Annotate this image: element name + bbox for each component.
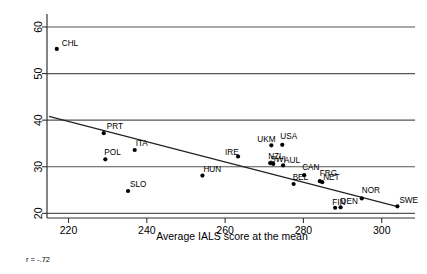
x-tick-label-300: 300 xyxy=(373,224,391,236)
y-tick-label-60: 60 xyxy=(32,21,44,33)
trend-line xyxy=(49,116,399,206)
data-label-CHL: CHL xyxy=(62,39,79,48)
data-label-NET: NET xyxy=(323,173,339,182)
y-tick-label-50: 50 xyxy=(32,68,44,80)
data-point-USA xyxy=(280,143,284,147)
data-label-USA: USA xyxy=(280,132,297,141)
data-label-PRT: PRT xyxy=(107,122,123,131)
data-point-CHL xyxy=(55,47,59,51)
correlation-annotation: r = -.72 xyxy=(26,255,50,264)
y-tick-label-30: 30 xyxy=(32,161,44,173)
data-point-POL xyxy=(103,157,107,161)
data-label-CAN: CAN xyxy=(302,163,319,172)
data-point-SLO xyxy=(126,189,130,193)
data-label-DEN: DEN xyxy=(341,197,358,206)
chart-canvas: CHLPRTPOLITASLOHUNIREUKMUSANZLSWIAULCANB… xyxy=(0,0,427,274)
data-point-HUN xyxy=(200,174,204,178)
data-label-ITA: ITA xyxy=(136,139,149,148)
data-label-SWE: SWE xyxy=(399,196,418,205)
data-point-ITA xyxy=(133,148,137,152)
data-label-HUN: HUN xyxy=(203,165,221,174)
gridlines xyxy=(47,27,415,213)
x-axis-title: Average IALS score at the mean xyxy=(156,230,308,242)
x-tick-label-220: 220 xyxy=(60,224,78,236)
data-label-POL: POL xyxy=(104,148,121,157)
x-tick-label-240: 240 xyxy=(138,224,156,236)
data-label-BEL: BEL xyxy=(293,173,309,182)
data-point-labels: CHLPRTPOLITASLOHUNIREUKMUSANZLSWIAULCANB… xyxy=(62,39,419,207)
data-label-UKM: UKM xyxy=(257,135,275,144)
data-label-NOR: NOR xyxy=(362,186,380,195)
scatter-plot-figure: CHLPRTPOLITASLOHUNIREUKMUSANZLSWIAULCANB… xyxy=(0,0,427,274)
y-tick-label-40: 40 xyxy=(32,114,44,126)
data-label-SLO: SLO xyxy=(130,180,146,189)
x-tick-marks xyxy=(69,218,382,223)
data-point-NOR xyxy=(360,196,364,200)
data-point-PRT xyxy=(102,131,106,135)
data-label-AUL: AUL xyxy=(284,156,300,165)
axis-lines xyxy=(47,14,415,218)
data-point-BEL xyxy=(292,182,296,186)
data-label-IRE: IRE xyxy=(225,148,239,157)
regression-line xyxy=(49,116,399,206)
y-tick-labels: 2030405060 xyxy=(32,21,44,219)
y-tick-label-20: 20 xyxy=(32,207,44,219)
